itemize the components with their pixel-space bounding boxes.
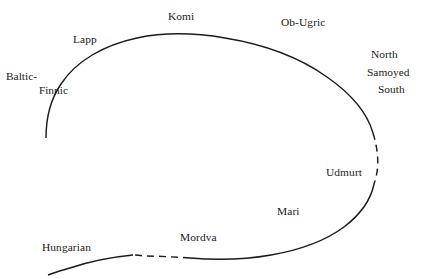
curve-segment-lower-left	[48, 255, 133, 275]
curve-segment-dashed-bottom	[133, 255, 190, 258]
label-north: North	[367, 46, 409, 64]
curve-segment-dashed-right	[373, 133, 378, 184]
continuum-curve-graphic	[0, 0, 443, 279]
label-south: South	[367, 81, 409, 99]
label-ob-ugric: Ob-Ugric	[281, 16, 325, 30]
diagram-canvas: Baltic- Finnic Lapp Komi Ob-Ugric North …	[0, 0, 443, 279]
label-baltic-finnic-line-2: Finnic	[6, 83, 68, 97]
curve-segment-lower-right	[190, 184, 374, 259]
label-baltic-finnic-line-1: Baltic-	[6, 69, 68, 83]
label-udmurt: Udmurt	[326, 166, 362, 180]
label-mordva: Mordva	[180, 231, 217, 245]
curve-segment-upper-left	[46, 34, 225, 138]
label-samoyed: Samoyed	[367, 64, 409, 82]
label-mari: Mari	[277, 205, 300, 219]
label-samoyed-group: North Samoyed South	[367, 46, 409, 99]
label-baltic-finnic: Baltic- Finnic	[6, 69, 68, 97]
curve-segment-upper-right	[225, 38, 373, 133]
label-lapp: Lapp	[73, 33, 97, 47]
label-komi: Komi	[168, 10, 194, 24]
label-hungarian: Hungarian	[42, 241, 91, 255]
